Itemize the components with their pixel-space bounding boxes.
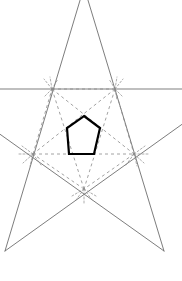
figure-background bbox=[0, 0, 182, 281]
pentagram-construction-figure bbox=[0, 0, 182, 281]
